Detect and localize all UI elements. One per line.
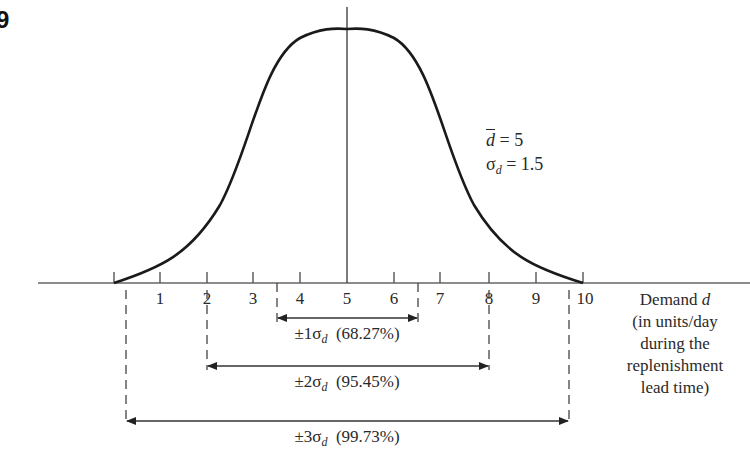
x-tick-label: 7 <box>436 289 445 309</box>
mean-annotation: d = 5 <box>486 128 543 152</box>
x-tick-label: 8 <box>485 289 494 309</box>
band-3sigma-label: ±3σd (99.73%) <box>294 427 399 450</box>
x-tick-label: 5 <box>343 289 352 309</box>
sigma-annotation: σd = 1.5 <box>486 152 543 182</box>
x-tick-label: 6 <box>390 289 399 309</box>
band-2sigma-label: ±2σd (95.45%) <box>294 372 399 395</box>
x-tick-label: 9 <box>532 289 541 309</box>
x-tick-label: 3 <box>249 289 258 309</box>
band-1sigma-label: ±1σd (68.27%) <box>294 324 399 347</box>
normal-distribution-chart <box>0 0 750 475</box>
x-tick-label: 4 <box>296 289 305 309</box>
x-tick-label: 1 <box>156 289 165 309</box>
x-tick-label: 2 <box>203 289 212 309</box>
x-axis-label: Demand d (in units/day during the replen… <box>600 289 750 399</box>
distribution-parameters: d = 5 σd = 1.5 <box>486 128 543 182</box>
x-axis-ticks <box>114 272 583 283</box>
x-tick-label: 10 <box>577 289 594 309</box>
